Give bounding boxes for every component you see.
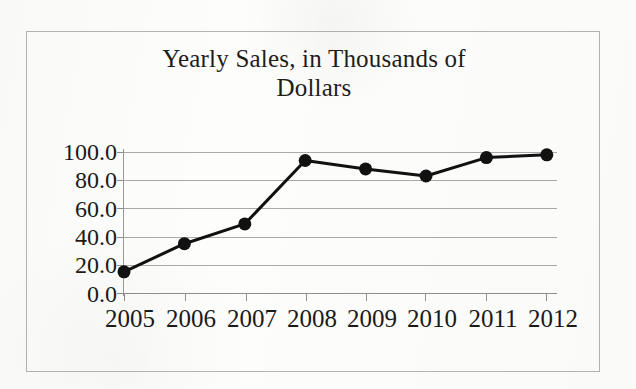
series-line <box>124 155 547 272</box>
chart-frame: Yearly Sales, in Thousands of Dollars <box>26 31 600 372</box>
data-point-2007 <box>238 217 251 230</box>
data-point-2006 <box>178 237 191 250</box>
data-point-2009 <box>359 162 372 175</box>
series-markers <box>118 148 554 278</box>
data-point-2012 <box>540 148 553 161</box>
data-point-2010 <box>420 170 433 183</box>
data-point-2011 <box>480 151 493 164</box>
chart-screenshot: Yearly Sales, in Thousands of Dollars <box>0 0 636 389</box>
data-series <box>27 32 601 373</box>
data-point-2005 <box>118 265 131 278</box>
data-point-2008 <box>299 154 312 167</box>
